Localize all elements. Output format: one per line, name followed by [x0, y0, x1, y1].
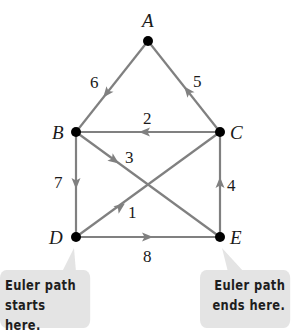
edge-label-7: 7 [54, 173, 63, 192]
vertex-c [215, 127, 225, 137]
callout-end-pointer [222, 248, 244, 272]
callout-start-pointer [62, 248, 76, 272]
vertex-d [71, 232, 81, 242]
callout-start-line1: Euler path [5, 275, 85, 295]
vertex-b [71, 127, 81, 137]
edge-label-5: 5 [193, 72, 202, 91]
edge-label-4: 4 [227, 176, 236, 195]
callout-start-line2: starts here. [5, 295, 85, 330]
edge-label-1: 1 [128, 203, 137, 222]
edge-label-3: 3 [125, 148, 134, 167]
callout-euler-end: Euler path ends here. [200, 270, 290, 328]
callout-euler-start: Euler path starts here. [0, 270, 90, 328]
vertex-label-c: C [230, 122, 243, 143]
vertex-e [215, 232, 225, 242]
edge-label-6: 6 [90, 73, 99, 92]
edge-6-a-to-b [76, 41, 148, 132]
edge-label-2: 2 [143, 109, 152, 128]
callout-end-line1: Euler path [205, 275, 285, 295]
callout-end-line2: ends here. [205, 295, 285, 315]
vertex-a [143, 36, 153, 46]
vertex-label-b: B [52, 122, 64, 143]
vertex-label-e: E [229, 227, 242, 248]
edge-5-c-to-a [148, 41, 220, 132]
vertex-label-d: D [48, 227, 63, 248]
vertex-label-a: A [140, 10, 154, 31]
edge-label-8: 8 [143, 247, 152, 266]
